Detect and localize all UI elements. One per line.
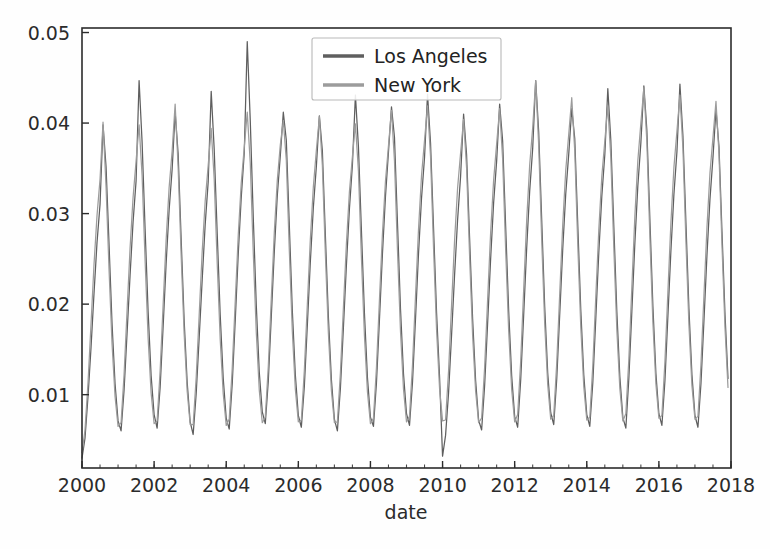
legend[interactable]: Los AngelesNew York (312, 38, 501, 100)
y-axis-tick-label: 0.03 (28, 203, 70, 225)
y-axis-tick-label: 0.02 (28, 293, 70, 315)
x-axis-tick-label: 2002 (130, 474, 178, 496)
y-axis-tick-label: 0.04 (28, 112, 70, 134)
legend-label-2: New York (374, 74, 461, 96)
line-chart: 2000200220042006200820102012201420162018… (0, 0, 770, 549)
y-axis-tick-label: 0.01 (28, 384, 70, 406)
y-axis-tick-label: 0.05 (28, 22, 70, 44)
chart-page: 2000200220042006200820102012201420162018… (0, 0, 770, 549)
legend-label-1: Los Angeles (374, 45, 487, 67)
x-axis-title: date (385, 501, 428, 523)
x-axis-tick-label: 2000 (58, 474, 106, 496)
x-axis-tick-label: 2010 (418, 474, 466, 496)
x-axis-tick-label: 2018 (707, 474, 755, 496)
x-axis-tick-label: 2008 (346, 474, 394, 496)
x-axis-tick-label: 2014 (563, 474, 611, 496)
x-axis-tick-label: 2012 (490, 474, 538, 496)
x-axis-tick-label: 2004 (202, 474, 250, 496)
x-axis-tick-label: 2016 (635, 474, 683, 496)
x-axis-tick-label: 2006 (274, 474, 322, 496)
